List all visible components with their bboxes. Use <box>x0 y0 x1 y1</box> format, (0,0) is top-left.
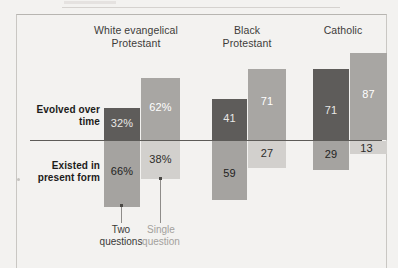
row-label-evolved-over-time: Evolved over time <box>14 104 100 128</box>
legend-label-line1: Single <box>131 224 191 236</box>
group-title-black-protestant: Black Protestant <box>201 24 293 49</box>
bar-value-blackprot-single-question-top: 71 <box>248 95 286 107</box>
row-label-line2: present form <box>10 172 100 184</box>
group-title-line2: Protestant <box>201 37 293 50</box>
bar-value-blackprot-two-questions-top: 41 <box>212 112 247 124</box>
group-title-line1: Black <box>201 24 293 37</box>
group-title-line1: Catholic <box>300 24 386 37</box>
zero-baseline <box>30 140 382 141</box>
row-label-existed-in-present-form: Existed in present form <box>10 160 100 184</box>
bar-value-catholic-two-questions-bottom: 29 <box>313 148 349 160</box>
bar-value-wep-two-questions-top: 32% <box>104 117 140 129</box>
legend-callout-line-two-questions <box>121 207 122 223</box>
bar-value-catholic-two-questions-top: 71 <box>313 104 349 116</box>
bar-value-wep-two-questions-bottom: 66% <box>104 165 140 177</box>
bar-value-blackprot-single-question-bottom: 27 <box>248 147 286 159</box>
bar-value-blackprot-two-questions-bottom: 59 <box>212 167 247 179</box>
group-title-line1: White evangelical <box>76 24 196 37</box>
row-label-line2: time <box>14 116 100 128</box>
bar-value-wep-single-question-bottom: 38% <box>141 153 180 165</box>
legend-label-single-question: Single question <box>131 224 191 248</box>
bar-value-catholic-single-question-bottom: 13 <box>348 142 385 154</box>
row-label-line1: Evolved over <box>14 104 100 116</box>
group-title-catholic: Catholic <box>300 24 386 37</box>
group-title-line2: Protestant <box>76 37 196 50</box>
bar-value-catholic-single-question-top: 87 <box>350 88 387 100</box>
legend-callout-line-single-question <box>160 180 161 223</box>
group-title-white-evangelical-protestant: White evangelical Protestant <box>76 24 196 49</box>
legend-label-line2: question <box>131 236 191 248</box>
row-label-line1: Existed in <box>10 160 100 172</box>
bar-value-wep-single-question-top: 62% <box>141 101 180 113</box>
